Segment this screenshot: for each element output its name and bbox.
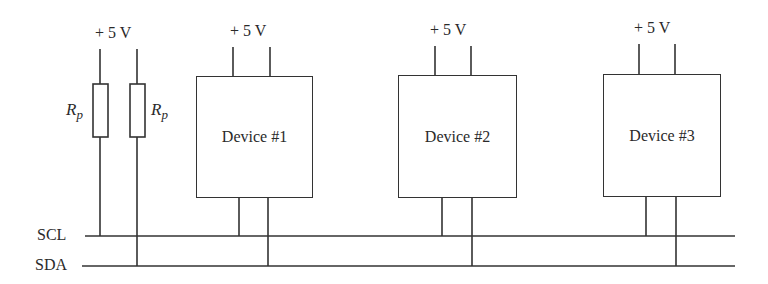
resistor-label-scl: Rp: [66, 100, 83, 123]
device-1-label: Device #1: [222, 128, 287, 146]
resistor-scl: [93, 84, 108, 137]
supply-label-resistors: + 5 V: [95, 25, 131, 41]
device-3-label: Device #3: [629, 127, 694, 145]
device-3-box: Device #3: [603, 74, 721, 197]
device-2-box: Device #2: [398, 75, 517, 198]
scl-label: SCL: [37, 227, 66, 243]
supply-label-device-3: + 5 V: [634, 20, 670, 36]
resistor-label-sda: Rp: [151, 100, 168, 123]
supply-label-device-1: + 5 V: [230, 23, 266, 39]
sda-label: SDA: [35, 257, 67, 273]
resistor-sda: [130, 84, 145, 137]
device-1-box: Device #1: [196, 76, 313, 198]
device-2-label: Device #2: [425, 128, 490, 146]
supply-label-device-2: + 5 V: [430, 22, 466, 38]
